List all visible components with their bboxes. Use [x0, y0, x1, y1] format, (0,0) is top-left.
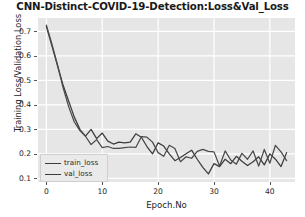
- y-tick-mark: [34, 105, 37, 106]
- x-tick-mark: [102, 182, 103, 185]
- legend-item-val-loss: val_loss: [45, 169, 105, 179]
- legend-swatch-train-loss: [45, 163, 61, 164]
- y-tick-mark: [34, 129, 37, 130]
- y-tick-mark: [34, 31, 37, 32]
- x-tick-mark: [46, 182, 47, 185]
- legend-label-train-loss: train_loss: [64, 158, 98, 167]
- x-tick-label: 20: [143, 187, 173, 196]
- chart-legend: train_loss val_loss: [40, 154, 108, 182]
- y-tick-mark: [34, 80, 37, 81]
- y-tick-mark: [34, 154, 37, 155]
- y-tick-mark: [34, 56, 37, 57]
- legend-swatch-val-loss: [45, 174, 61, 175]
- x-tick-mark: [270, 182, 271, 185]
- legend-item-train-loss: train_loss: [45, 158, 105, 168]
- y-tick-mark: [34, 178, 37, 179]
- x-tick-label: 0: [31, 187, 61, 196]
- y-tick-label: 0.1: [1, 174, 31, 183]
- y-axis-label: Training Loss/Validation Loss: [13, 0, 23, 153]
- chart-figure: CNN-Distinct-COVID-19-Detection:Loss&Val…: [0, 0, 305, 217]
- x-tick-label: 40: [255, 187, 285, 196]
- x-tick-mark: [214, 182, 215, 185]
- x-tick-label: 10: [87, 187, 117, 196]
- chart-title: CNN-Distinct-COVID-19-Detection:Loss&Val…: [0, 1, 305, 12]
- legend-label-val-loss: val_loss: [64, 169, 92, 178]
- x-axis-label: Epoch.No: [38, 200, 295, 210]
- x-tick-label: 30: [199, 187, 229, 196]
- x-tick-mark: [158, 182, 159, 185]
